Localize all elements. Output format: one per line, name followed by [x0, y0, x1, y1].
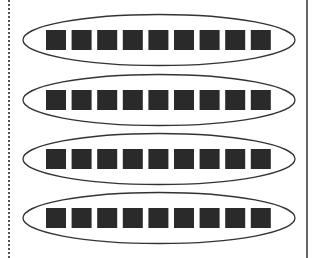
square-item — [72, 149, 92, 169]
square-item — [72, 30, 92, 50]
square-item — [251, 30, 271, 50]
square-item — [97, 149, 117, 169]
square-item — [251, 90, 271, 110]
square-item — [123, 90, 143, 110]
square-item — [46, 208, 66, 228]
square-group — [23, 15, 295, 66]
square-item — [148, 149, 168, 169]
square-item — [174, 149, 194, 169]
square-item — [251, 149, 271, 169]
square-item — [123, 30, 143, 50]
square-item — [174, 90, 194, 110]
square-item — [200, 149, 220, 169]
square-group — [23, 193, 295, 244]
square-item — [200, 30, 220, 50]
square-item — [97, 208, 117, 228]
square-item — [225, 149, 245, 169]
square-item — [148, 208, 168, 228]
square-item — [225, 90, 245, 110]
square-item — [148, 90, 168, 110]
square-item — [200, 208, 220, 228]
square-item — [123, 149, 143, 169]
square-item — [225, 30, 245, 50]
square-group — [23, 75, 295, 126]
square-item — [46, 30, 66, 50]
square-item — [174, 208, 194, 228]
square-item — [97, 30, 117, 50]
square-item — [148, 30, 168, 50]
square-item — [46, 90, 66, 110]
square-item — [174, 30, 194, 50]
square-item — [123, 208, 143, 228]
diagram-canvas — [0, 0, 313, 258]
square-item — [225, 208, 245, 228]
square-item — [251, 208, 271, 228]
square-item — [72, 90, 92, 110]
square-item — [72, 208, 92, 228]
square-group — [23, 134, 295, 185]
square-item — [46, 149, 66, 169]
square-item — [200, 90, 220, 110]
square-item — [97, 90, 117, 110]
